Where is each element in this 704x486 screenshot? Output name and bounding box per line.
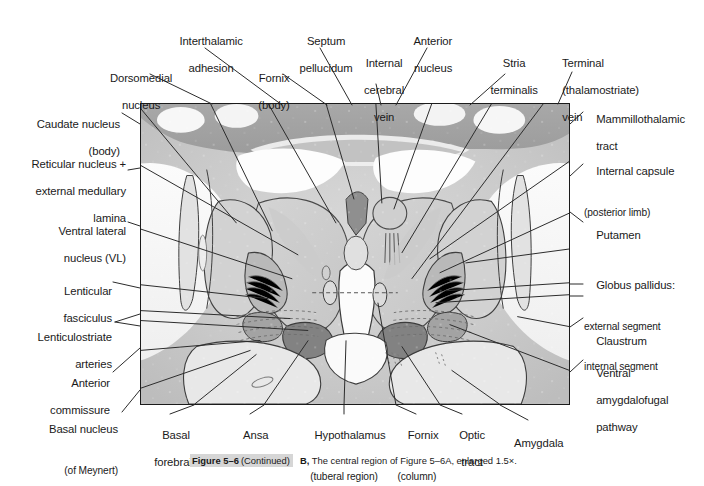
label-line: nucleus	[414, 62, 452, 74]
label-line: (body)	[258, 99, 289, 111]
leader-anterior-commissure	[113, 348, 140, 372]
label-line: Ventral lateral	[58, 225, 126, 237]
label-line: Basal	[162, 429, 190, 441]
leader-lenticular-fasciculus	[113, 282, 140, 288]
label-hypothalamus: Hypothalamus (tuberal region)	[290, 416, 398, 486]
label-stria-terminalis: Stria terminalis	[470, 44, 546, 111]
label-basal-nucleus-meynert: Basal nucleus (of Meynert)	[0, 410, 118, 486]
label-line: Ventral	[596, 367, 630, 379]
leader-ventral-amygdalofugal	[570, 360, 583, 372]
label-line: Caudate nucleus	[37, 118, 120, 130]
brain-section-panel	[140, 103, 570, 405]
figure-caption: Figure 5–6(Continued)B, The central regi…	[190, 455, 610, 467]
label-ansa-lenticularis: Ansa lenticularis	[208, 416, 292, 483]
label-line: pathway	[596, 421, 637, 433]
label-line: vein	[374, 111, 394, 123]
label-line: Amygdala	[514, 437, 563, 449]
caption-part-label: B,	[300, 455, 309, 466]
leader-claustrum	[570, 318, 583, 327]
label-fornix-body: Fornix (body)	[232, 59, 304, 126]
label-line: Fornix	[259, 72, 290, 84]
caption-figure-number: Figure 5–6	[190, 454, 241, 467]
label-basal-forebrain: Basal forebrain	[130, 416, 210, 483]
label-line: Lenticulostriate	[38, 331, 112, 343]
label-line: Stria	[503, 57, 526, 69]
brain-section-image	[141, 104, 569, 404]
label-line: Basal nucleus	[49, 423, 118, 435]
label-line: external medullary	[35, 185, 126, 197]
leader-ventral-lateral-nucleus	[128, 222, 140, 226]
label-line: cerebral	[364, 84, 404, 96]
label-line: Internal capsule	[596, 165, 674, 177]
label-line: (tuberal region)	[290, 470, 398, 483]
label-line: (column)	[386, 470, 448, 483]
label-internal-cerebral-vein: Internal cerebral vein	[340, 44, 416, 138]
label-line: Reticular nucleus +	[32, 158, 127, 170]
label-line: Mammillothalamic	[596, 113, 685, 125]
label-line: Internal	[366, 57, 403, 69]
label-line: Claustrum	[596, 335, 647, 347]
leader-lenticulostriate	[115, 314, 140, 322]
label-line: amygdalofugal	[596, 394, 668, 406]
caption-text: The central region of Figure 5–6A, enlar…	[312, 455, 517, 466]
label-line: terminalis	[490, 84, 537, 96]
label-putamen: Putamen	[584, 216, 694, 256]
label-line: adhesion	[189, 62, 234, 74]
label-line: nucleus (VL)	[64, 252, 126, 264]
label-line: (thalamostriate)	[562, 84, 639, 96]
label-line: Putamen	[596, 229, 641, 241]
label-line: Dorsomedial	[110, 72, 172, 84]
leader-internal-capsule	[570, 164, 583, 176]
label-line: Anterior	[71, 377, 110, 389]
label-line: nucleus	[122, 99, 160, 111]
label-line: Fornix	[408, 429, 439, 441]
label-line: Globus pallidus:	[596, 279, 675, 291]
label-line: Ansa	[243, 429, 268, 441]
label-line: Terminal	[562, 57, 604, 69]
caption-continued: (Continued)	[241, 454, 293, 467]
leader-reticular-nucleus	[128, 168, 140, 170]
leader-lenticulostriate-2	[115, 322, 140, 326]
leader-ansa-lenticularis	[250, 405, 264, 414]
leader-amygdala	[500, 405, 528, 420]
leader-basal-nucleus	[122, 390, 140, 412]
label-line: Optic	[459, 429, 485, 441]
leader-basal-forebrain	[170, 405, 194, 414]
label-ventral-lateral-nucleus: Ventral lateral nucleus (VL)	[0, 212, 126, 279]
leader-putamen	[570, 212, 583, 222]
label-line: Lenticular	[64, 285, 112, 297]
label-line: (of Meynert)	[0, 464, 118, 477]
label-line: tract	[596, 140, 617, 152]
leader-optic-tract	[440, 405, 462, 414]
label-line: Interthalamic	[179, 35, 242, 47]
label-ventral-amygdalofugal-pathway: Ventral amygdalofugal pathway	[584, 354, 698, 448]
label-line: Anterior	[413, 35, 452, 47]
leader-fornix-column	[396, 405, 416, 414]
label-line: vein	[562, 111, 582, 123]
label-line: Hypothalamus	[315, 429, 386, 441]
label-optic-tract: Optic tract	[442, 416, 490, 483]
label-fornix-column: Fornix (column)	[386, 416, 448, 486]
